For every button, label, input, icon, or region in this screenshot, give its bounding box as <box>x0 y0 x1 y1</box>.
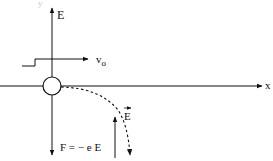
step-line <box>22 59 35 66</box>
velocity-label: vo <box>96 53 107 68</box>
x-axis-label: x <box>265 79 271 91</box>
electron-deflection-diagram: y E vo x F = − e E E <box>0 0 273 161</box>
electron-circle-icon <box>43 77 61 95</box>
force-label: F = − e E <box>60 141 101 153</box>
e-vector-label: E <box>124 110 131 122</box>
y-axis-label: y <box>38 0 43 8</box>
e-label: E <box>57 8 64 22</box>
